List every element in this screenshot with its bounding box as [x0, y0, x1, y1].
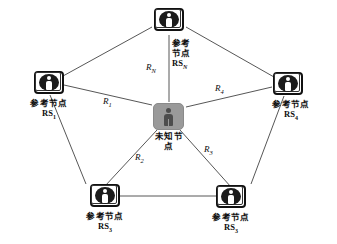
- reference-node-rs-n-label-line2: 节点: [172, 48, 191, 58]
- reference-node-rs-n-id-base: RS: [172, 58, 183, 68]
- person-body-icon: [166, 18, 172, 27]
- reference-node-rs-3-right[interactable]: [216, 185, 246, 208]
- person-head-icon: [47, 76, 51, 80]
- range-label-r-n-sub: N: [152, 67, 156, 74]
- person-head-icon: [167, 13, 171, 17]
- reference-node-rs-4[interactable]: [273, 72, 303, 95]
- person-head-icon: [166, 108, 171, 113]
- reference-node-rs-3-left-id: RS3: [64, 221, 146, 235]
- reference-node-rs-4-id: RS4: [250, 109, 332, 123]
- reference-node-rs-3-right-id: RS3: [190, 222, 272, 236]
- person-body-icon: [285, 82, 291, 91]
- reference-node-rs-4-label: 参考节点 RS4: [250, 99, 332, 123]
- reference-node-rs-1-label: 参考节点 RS1: [8, 98, 90, 122]
- reference-node-rs-4-id-sub: 4: [295, 115, 298, 121]
- reference-node-rs-3-left[interactable]: [90, 184, 120, 207]
- range-label-r-3-sub: 3: [210, 149, 213, 156]
- reference-node-rs-3-left-label-line1: 参考节点: [64, 211, 146, 221]
- unknown-node[interactable]: [153, 103, 184, 130]
- reference-node-rs-3-left-id-sub: 3: [109, 227, 112, 233]
- reference-node-rs-n-label-line1: 参考: [172, 38, 191, 48]
- reference-node-rs-3-right-id-base: RS: [224, 222, 235, 232]
- reference-node-rs-1-id-base: RS: [42, 108, 53, 118]
- unknown-node-label-line2: 点: [133, 141, 205, 151]
- reference-node-rs-3-right-id-sub: 3: [235, 228, 238, 234]
- person-head-icon: [103, 189, 107, 193]
- range-label-r-4-sub: 4: [221, 88, 224, 95]
- reference-node-rs-3-right-label-line1: 参考节点: [190, 212, 272, 222]
- range-label-r-2: R2: [135, 152, 144, 164]
- reference-node-rs-1-id-sub: 1: [53, 114, 56, 120]
- range-label-r-1-sub: 1: [109, 101, 112, 108]
- edge-rsn-rs4: [186, 27, 274, 77]
- reference-node-rs-3-left-id-base: RS: [98, 221, 109, 231]
- reference-node-rs-n-label: 参考 节点 RSN: [172, 38, 191, 72]
- unknown-node-label-line1: 未知节: [133, 131, 205, 141]
- person-head-icon: [229, 190, 233, 194]
- reference-node-rs-4-label-line1: 参考节点: [250, 99, 332, 109]
- reference-node-rs-3-left-label: 参考节点 RS3: [64, 211, 146, 235]
- person-legs-icon: [168, 119, 169, 126]
- range-label-r-2-sub: 2: [141, 157, 144, 164]
- reference-node-rs-1-id: RS1: [8, 108, 90, 122]
- range-label-r-1: R1: [103, 96, 112, 108]
- edge-rsn-rs1: [63, 27, 152, 76]
- range-label-r-n: RN: [146, 62, 156, 74]
- reference-node-rs-n-id: RSN: [172, 58, 191, 72]
- person-body-icon: [228, 195, 234, 204]
- person-head-icon: [286, 77, 290, 81]
- person-body-icon: [102, 194, 108, 203]
- range-label-r-3: R3: [204, 144, 213, 156]
- reference-node-rs-n[interactable]: [154, 8, 184, 31]
- reference-node-rs-1-label-line1: 参考节点: [8, 98, 90, 108]
- reference-node-rs-4-id-base: RS: [284, 109, 295, 119]
- range-label-r-4: R4: [215, 83, 224, 95]
- reference-node-rs-n-id-sub: N: [183, 64, 187, 70]
- reference-node-rs-3-right-label: 参考节点 RS3: [190, 212, 272, 236]
- diagram-canvas: 参考 节点 RSN 参考节点 RS1 参考节点 RS4 参考节点 RS3: [0, 0, 337, 244]
- unknown-node-label: 未知节 点: [133, 131, 205, 151]
- reference-node-rs-1[interactable]: [34, 71, 64, 94]
- person-body-icon: [46, 81, 52, 90]
